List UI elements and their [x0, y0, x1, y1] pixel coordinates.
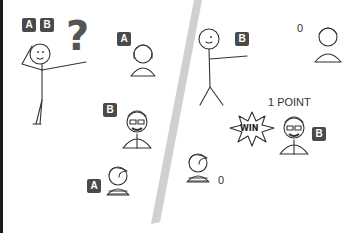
point-label: 1 POINT: [268, 96, 311, 108]
stick-figure-pointing: [195, 25, 265, 115]
score-bottom: 0: [218, 174, 224, 186]
avatar-boy-striped: [104, 163, 134, 203]
badge-a-top: A: [22, 18, 36, 32]
avatar-boy-top-right: [312, 24, 344, 66]
avatar-winner-glasses: [277, 114, 311, 160]
avatar-boy-striped-right: [184, 150, 214, 190]
avatar-man-glasses: [120, 108, 154, 154]
avatar-boy-headphones: [128, 42, 158, 82]
badge-b-person2: B: [103, 103, 117, 117]
win-text: WIN: [240, 124, 259, 133]
badge-b-pointer: B: [235, 32, 249, 46]
stick-figure-thinking: [18, 40, 118, 140]
badge-a-person3: A: [87, 179, 101, 193]
score-top: 0: [297, 22, 303, 34]
badge-b-top: B: [40, 18, 54, 32]
badge-b-winner: B: [312, 127, 326, 141]
